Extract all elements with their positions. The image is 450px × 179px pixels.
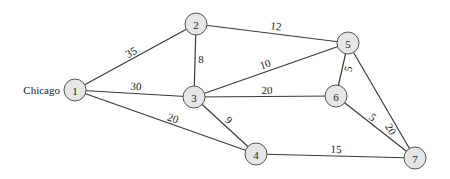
- nodes-layer: 1234567: [64, 13, 426, 169]
- edge-6-7: [336, 96, 415, 158]
- edge-weight-4-7: 15: [330, 143, 342, 155]
- node-3: 3: [183, 86, 205, 108]
- edge-3-4: [194, 97, 256, 154]
- edge-3-6: [194, 96, 336, 97]
- node-label: 5: [345, 38, 351, 50]
- edge-weight-2-3: 8: [198, 53, 204, 65]
- node-label: 6: [333, 91, 339, 103]
- edges-layer: [75, 24, 415, 158]
- node-label: 2: [193, 19, 199, 31]
- node-4: 4: [245, 143, 267, 165]
- edge-weight-2-5: 12: [270, 19, 282, 32]
- city-label-chicago: Chicago: [23, 84, 60, 96]
- node-label: 3: [191, 92, 197, 104]
- node-label: 4: [253, 149, 259, 161]
- edge-weight-1-3: 30: [130, 80, 142, 93]
- node-7: 7: [404, 147, 426, 169]
- edge-weight-1-2: 35: [123, 44, 139, 60]
- edge-weight-3-6: 20: [261, 84, 273, 96]
- node-6: 6: [325, 85, 347, 107]
- node-1: 1: [64, 79, 86, 101]
- node-label: 7: [412, 153, 418, 165]
- edge-weight-3-5: 10: [258, 56, 273, 71]
- network-graph: 35302081210209520515 1234567 Chicago: [0, 0, 450, 179]
- edge-5-7: [348, 43, 415, 158]
- node-5: 5: [337, 32, 359, 54]
- node-2: 2: [185, 13, 207, 35]
- edge-weight-5-6: 5: [342, 65, 355, 74]
- node-label: 1: [72, 85, 78, 97]
